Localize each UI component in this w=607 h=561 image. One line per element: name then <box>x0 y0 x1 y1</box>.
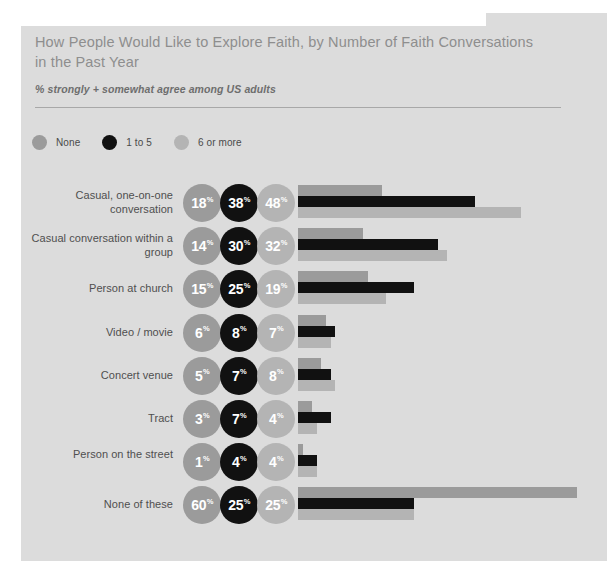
bar-segment <box>298 239 438 250</box>
value-bubble-number: 8 <box>232 325 240 341</box>
value-bubble: 60% <box>183 486 221 524</box>
chart-row: Casual, one-on-one conversation18%38%48% <box>0 184 607 222</box>
bar-segment <box>298 498 414 509</box>
value-bubble-number: 19 <box>265 281 280 297</box>
value-bubble-number: 15 <box>191 281 206 297</box>
chart-row: Person on the street1%4%4% <box>0 443 607 481</box>
percent-sign: % <box>240 367 247 376</box>
value-bubble-number: 38 <box>228 195 243 211</box>
value-bubble: 48% <box>257 184 295 222</box>
percent-sign: % <box>277 454 284 463</box>
percent-sign: % <box>244 238 251 247</box>
value-bubble: 1% <box>183 443 221 481</box>
chart-row: Video / movie6%8%7% <box>0 314 607 352</box>
chart-legend: None1 to 56 or more <box>32 135 264 150</box>
row-label: Casual, one-on-one conversation <box>28 189 173 216</box>
value-bubble: 14% <box>183 227 221 265</box>
row-value-bubbles: 1%4%4% <box>183 443 295 481</box>
chart-row: Concert venue5%7%8% <box>0 357 607 395</box>
value-bubble-number: 5 <box>195 368 203 384</box>
legend-item[interactable]: 6 or more <box>174 135 242 150</box>
bar-segment <box>298 326 335 337</box>
chart-row: Person at church15%25%19% <box>0 270 607 308</box>
bar-segment <box>298 380 335 391</box>
value-bubble: 25% <box>257 486 295 524</box>
bar-segment <box>298 293 386 304</box>
value-bubble-number: 25 <box>265 497 280 513</box>
percent-sign: % <box>281 195 288 204</box>
value-bubble-number: 32 <box>265 238 280 254</box>
bar-segment <box>298 369 331 380</box>
row-label: Casual conversation within a group <box>28 232 173 259</box>
row-label: Person at church <box>28 282 173 296</box>
bar-segment <box>298 271 368 282</box>
percent-sign: % <box>203 454 210 463</box>
row-value-bubbles: 18%38%48% <box>183 184 295 222</box>
page-title: How People Would Like to Explore Faith, … <box>35 32 535 72</box>
row-value-bubbles: 15%25%19% <box>183 270 295 308</box>
bar-segment <box>298 455 317 466</box>
legend-item[interactable]: 1 to 5 <box>102 135 152 150</box>
chart-row: Casual conversation within a group14%30%… <box>0 227 607 265</box>
row-label: Concert venue <box>28 369 173 383</box>
value-bubble: 4% <box>257 443 295 481</box>
percent-sign: % <box>281 238 288 247</box>
chart-row: None of these60%25%25% <box>0 486 607 524</box>
value-bubble: 38% <box>220 184 258 222</box>
value-bubble-number: 4 <box>269 411 277 427</box>
value-bubble-number: 25 <box>228 281 243 297</box>
circle-icon <box>32 135 47 150</box>
bar-segment <box>298 282 414 293</box>
row-bars <box>298 487 577 520</box>
value-bubble-number: 6 <box>195 325 203 341</box>
row-label: None of these <box>28 498 173 512</box>
value-bubble: 32% <box>257 227 295 265</box>
value-bubble: 25% <box>220 270 258 308</box>
value-bubble: 18% <box>183 184 221 222</box>
row-bars <box>298 271 414 304</box>
row-value-bubbles: 5%7%8% <box>183 357 295 395</box>
bar-segment <box>298 358 321 369</box>
bar-segment <box>298 228 363 239</box>
percent-sign: % <box>207 238 214 247</box>
bar-segment <box>298 487 577 498</box>
value-bubble-number: 18 <box>191 195 206 211</box>
percent-sign: % <box>240 324 247 333</box>
value-bubble-number: 25 <box>228 497 243 513</box>
bar-segment <box>298 315 326 326</box>
value-bubble: 4% <box>257 400 295 438</box>
percent-sign: % <box>240 411 247 420</box>
value-bubble: 19% <box>257 270 295 308</box>
percent-sign: % <box>277 367 284 376</box>
row-bars <box>298 228 447 261</box>
value-bubble-number: 4 <box>232 454 240 470</box>
percent-sign: % <box>277 324 284 333</box>
value-bubble-number: 7 <box>232 368 240 384</box>
row-bars <box>298 358 335 391</box>
value-bubble-number: 48 <box>265 195 280 211</box>
percent-sign: % <box>244 195 251 204</box>
bar-segment <box>298 423 317 434</box>
row-label: Tract <box>28 412 173 426</box>
legend-item[interactable]: None <box>32 135 80 150</box>
value-bubble-number: 7 <box>232 411 240 427</box>
legend-item-label: None <box>56 137 80 148</box>
top-white-notch <box>21 13 486 26</box>
circle-icon <box>174 135 189 150</box>
value-bubble-number: 3 <box>195 411 203 427</box>
row-value-bubbles: 60%25%25% <box>183 486 295 524</box>
value-bubble-number: 4 <box>269 454 277 470</box>
row-bars <box>298 401 331 434</box>
percent-sign: % <box>244 281 251 290</box>
row-label: Video / movie <box>28 326 173 340</box>
percent-sign: % <box>203 324 210 333</box>
value-bubble-number: 30 <box>228 238 243 254</box>
bar-segment <box>298 401 312 412</box>
value-bubble: 3% <box>183 400 221 438</box>
value-bubble: 30% <box>220 227 258 265</box>
row-bars <box>298 315 335 348</box>
row-bars <box>298 185 521 218</box>
percent-sign: % <box>281 497 288 506</box>
bar-segment <box>298 444 303 455</box>
bar-segment <box>298 466 317 477</box>
